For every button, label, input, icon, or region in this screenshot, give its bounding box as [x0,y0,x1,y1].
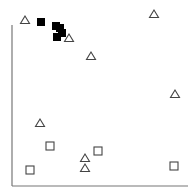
triangle-marker [81,164,90,172]
triangle-marker [36,119,45,127]
triangle-marker [87,52,96,60]
triangle-marker [150,10,159,18]
open-square-marker [94,147,102,155]
open-square-marker [26,166,34,174]
open-square-marker [170,162,178,170]
triangle-marker [21,16,30,24]
filled-square-marker [53,33,61,41]
triangle-marker [171,90,180,98]
markers-layer [21,10,180,174]
filled-square-marker [37,18,45,26]
open-square-marker [46,142,54,150]
scatter-plot [0,0,193,194]
triangle-marker [81,154,90,162]
